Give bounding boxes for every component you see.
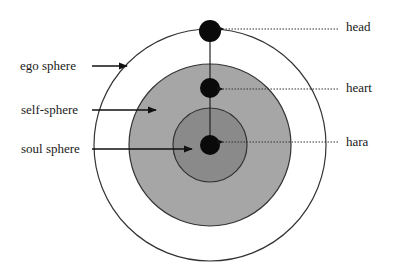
head-label: head <box>346 20 371 33</box>
hara-label: hara <box>346 135 368 148</box>
head-dot <box>199 20 221 42</box>
self-sphere-label: self-sphere <box>21 103 78 116</box>
soul-sphere-label: soul sphere <box>21 142 80 155</box>
hara-dot <box>200 135 220 155</box>
heart-dot <box>200 78 220 98</box>
spheres-diagram <box>0 0 394 274</box>
heart-label: heart <box>346 81 372 94</box>
ego-sphere-label: ego sphere <box>20 59 76 72</box>
